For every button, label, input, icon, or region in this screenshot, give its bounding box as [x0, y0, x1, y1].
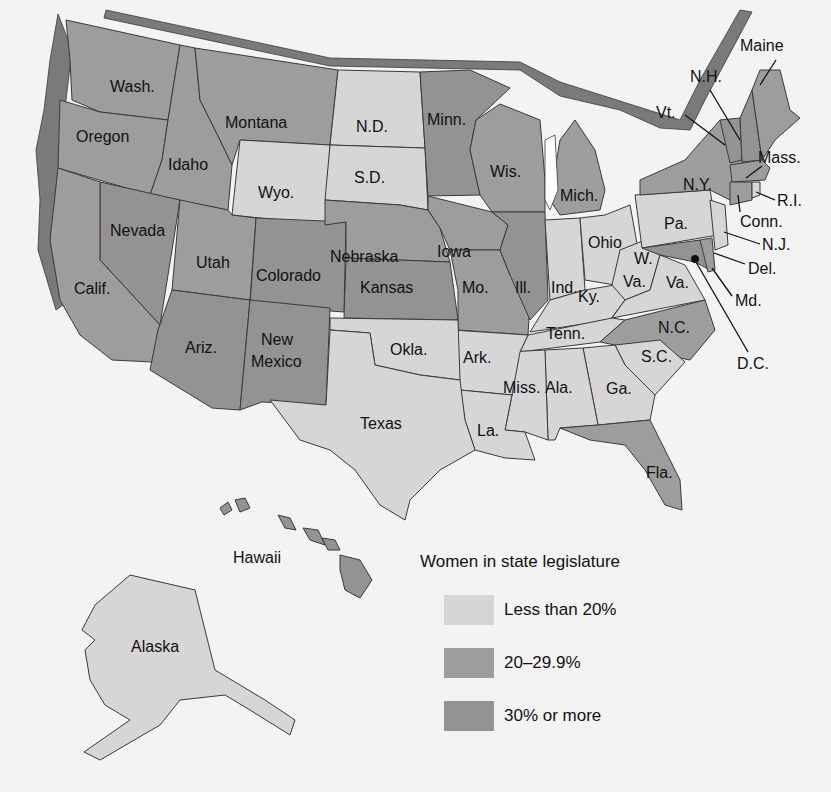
label-md: Md.	[735, 292, 762, 309]
label-okla: Okla.	[390, 341, 427, 358]
label-ind: Ind.	[551, 279, 578, 296]
leader-nj	[724, 232, 760, 244]
label-nevada: Nevada	[110, 222, 165, 239]
dc-marker	[691, 255, 699, 263]
label-mo: Mo.	[462, 279, 489, 296]
label-mass: Mass.	[758, 149, 801, 166]
label-nebraska: Nebraska	[330, 248, 399, 265]
label-texas: Texas	[360, 415, 402, 432]
label-colorado: Colorado	[256, 267, 321, 284]
label-iowa: Iowa	[437, 243, 471, 260]
alaska[interactable]	[82, 575, 295, 760]
label-ky: Ky.	[578, 288, 600, 305]
label-la: La.	[477, 422, 499, 439]
state-rhode-island[interactable]	[752, 182, 760, 198]
legend-label-low: Less than 20%	[504, 600, 616, 620]
legend-swatch-mid	[444, 648, 494, 678]
label-mich: Mich.	[560, 187, 598, 204]
label-oregon: Oregon	[76, 128, 129, 145]
label-vt: Vt.	[656, 104, 676, 121]
label-wash: Wash.	[110, 78, 155, 95]
hawaii[interactable]	[220, 498, 372, 598]
label-ohio: Ohio	[588, 234, 622, 251]
label-calif: Calif.	[74, 280, 110, 297]
legend: Women in state legislature Less than 20%…	[420, 552, 620, 731]
label-ariz: Ariz.	[185, 339, 217, 356]
label-ny: N.Y.	[683, 176, 712, 193]
label-wva-2: Va.	[623, 273, 646, 290]
label-utah: Utah	[196, 254, 230, 271]
label-ala: Ala.	[545, 379, 573, 396]
label-conn: Conn.	[740, 213, 783, 230]
label-dc: D.C.	[737, 355, 769, 372]
label-del: Del.	[748, 260, 776, 277]
label-maine: Maine	[740, 37, 784, 54]
label-idaho: Idaho	[168, 156, 208, 173]
label-nc: N.C.	[658, 319, 690, 336]
state-connecticut[interactable]	[730, 182, 752, 205]
state-wisconsin[interactable]	[470, 104, 545, 212]
label-hawaii: Hawaii	[233, 549, 281, 566]
state-washington[interactable]	[66, 20, 180, 120]
label-ill: Ill.	[515, 279, 531, 296]
legend-swatch-high	[444, 701, 494, 731]
label-tenn: Tenn.	[546, 325, 585, 342]
label-va: Va.	[666, 274, 689, 291]
legend-label-high: 30% or more	[504, 706, 601, 726]
label-montana: Montana	[225, 114, 287, 131]
label-ark: Ark.	[463, 349, 491, 366]
legend-swatch-low	[444, 595, 494, 625]
label-sd: S.D.	[354, 169, 385, 186]
leader-del	[714, 253, 745, 264]
state-north-dakota[interactable]	[330, 70, 425, 148]
label-sc: S.C.	[641, 348, 672, 365]
label-wva-1: W.	[634, 250, 653, 267]
label-kansas: Kansas	[360, 279, 413, 296]
label-nm-2: Mexico	[251, 353, 302, 370]
label-nd: N.D.	[356, 118, 388, 135]
state-wyoming[interactable]	[232, 140, 330, 225]
us-map: Wash. Oregon Idaho Montana Wyo. N.D. S.D…	[0, 0, 831, 792]
label-ri: R.I.	[777, 192, 802, 209]
label-fla: Fla.	[646, 464, 673, 481]
leader-ri	[756, 192, 775, 200]
label-minn: Minn.	[427, 111, 466, 128]
label-alaska: Alaska	[131, 638, 179, 655]
label-nh: N.H.	[690, 68, 722, 85]
legend-item-low: Less than 20%	[444, 595, 620, 625]
state-colorado[interactable]	[250, 218, 346, 312]
label-pa: Pa.	[664, 215, 688, 232]
label-wyo: Wyo.	[258, 184, 294, 201]
legend-item-mid: 20–29.9%	[444, 648, 620, 678]
label-ga: Ga.	[606, 380, 632, 397]
label-nm-1: New	[261, 331, 293, 348]
legend-item-high: 30% or more	[444, 701, 620, 731]
legend-label-mid: 20–29.9%	[504, 653, 581, 673]
label-nj: N.J.	[762, 236, 790, 253]
label-wis: Wis.	[490, 163, 521, 180]
leader-md	[712, 268, 732, 296]
label-miss: Miss.	[503, 379, 540, 396]
legend-title: Women in state legislature	[420, 552, 620, 572]
